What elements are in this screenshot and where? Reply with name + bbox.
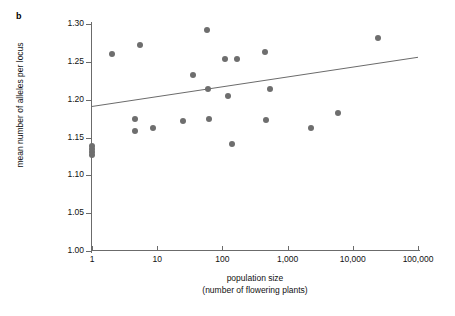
y-tick-label: 1.30 — [67, 18, 84, 28]
scatter-point — [190, 72, 196, 78]
scatter-point — [137, 42, 143, 48]
y-tick-label: 1.20 — [67, 94, 84, 104]
x-tick-label: 1,000 — [277, 254, 298, 264]
scatter-point — [204, 27, 210, 33]
scatter-point — [335, 110, 341, 116]
scatter-point — [150, 125, 156, 131]
y-tick-label: 1.25 — [67, 56, 84, 66]
scatter-point — [222, 56, 228, 62]
scatter-point — [262, 49, 268, 55]
y-tick-mark — [86, 62, 91, 63]
y-tick-mark — [86, 251, 91, 252]
scatter-point — [206, 116, 212, 122]
y-tick-label: 1.05 — [67, 207, 84, 217]
y-tick-mark — [86, 213, 91, 214]
x-tick-mark — [92, 246, 93, 251]
scatter-point — [267, 86, 273, 92]
scatter-point — [229, 141, 235, 147]
y-axis-line — [91, 22, 92, 253]
y-tick-label: 1.15 — [67, 132, 84, 142]
scatter-point — [375, 35, 381, 41]
scatter-point — [180, 118, 186, 124]
scatter-point — [225, 93, 231, 99]
x-tick-label: 1 — [90, 254, 95, 264]
scatter-point — [308, 125, 314, 131]
x-tick-label: 100 — [215, 254, 229, 264]
y-tick-label: 1.00 — [67, 245, 84, 255]
y-tick-mark — [86, 24, 91, 25]
scatter-point — [89, 152, 95, 158]
scatter-point — [132, 128, 138, 134]
regression-line — [0, 0, 455, 316]
x-axis-title: population size (number of flowering pla… — [92, 272, 418, 296]
x-tick-mark — [353, 246, 354, 251]
y-tick-mark — [86, 138, 91, 139]
scatter-point — [132, 116, 138, 122]
x-tick-label: 100,000 — [403, 254, 434, 264]
x-tick-mark — [222, 246, 223, 251]
x-tick-mark — [157, 246, 158, 251]
y-tick-label: 1.10 — [67, 169, 84, 179]
x-tick-label: 10 — [152, 254, 161, 264]
scatter-point — [234, 56, 240, 62]
y-axis-title: mean number of alleles per locus — [15, 0, 25, 215]
x-tick-mark — [418, 246, 419, 251]
x-axis-line — [91, 250, 420, 251]
scatter-point — [109, 51, 115, 57]
x-axis-title-line2: (number of flowering plants) — [92, 284, 418, 296]
figure-panel-b: b 1.001.051.101.151.201.251.30 1101001,0… — [0, 0, 455, 316]
y-tick-mark — [86, 100, 91, 101]
x-tick-mark — [288, 246, 289, 251]
x-axis-title-line1: population size — [92, 272, 418, 284]
scatter-point — [205, 86, 211, 92]
scatter-point — [263, 117, 269, 123]
y-tick-mark — [86, 175, 91, 176]
x-tick-label: 10,000 — [340, 254, 366, 264]
